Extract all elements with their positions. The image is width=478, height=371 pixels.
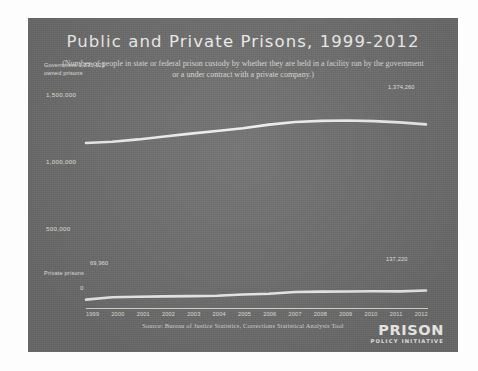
screenshot-root: Public and Private Prisons, 1999-2012 (N… <box>0 0 478 371</box>
plot-area: 1,500,000 1,000,000 500,000 0 Government… <box>86 94 426 309</box>
chart-title: Public and Private Prisons, 1999-2012 <box>28 32 458 51</box>
government-series-label-line1: Government 1,235,121 <box>44 62 105 68</box>
government-prisons-line <box>86 120 426 143</box>
private-series-annotation: Private prisons <box>44 270 84 278</box>
private-start-value-label: 69,960 <box>90 260 108 268</box>
government-end-value-label: 1,374,260 <box>388 84 415 92</box>
government-series-annotation: Government 1,235,121 owned prisons <box>44 62 105 77</box>
logo-line-2: POLICY INITIATIVE <box>370 339 444 344</box>
chart-subtitle: (Number of people in state or federal pr… <box>62 58 424 80</box>
private-end-value-label: 137,220 <box>386 256 408 264</box>
prison-policy-initiative-logo: PRISON POLICY INITIATIVE <box>370 323 444 344</box>
chart-poster-panel: Public and Private Prisons, 1999-2012 (N… <box>28 18 458 352</box>
government-series-label-line2: owned prisons <box>44 70 83 76</box>
logo-line-1: PRISON <box>370 323 444 338</box>
private-prisons-line <box>86 291 426 300</box>
chart-lines <box>86 94 426 309</box>
